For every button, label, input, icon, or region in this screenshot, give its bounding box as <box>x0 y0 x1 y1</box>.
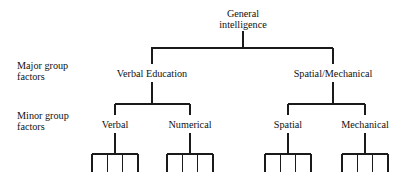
row-label-minor-line2: factors <box>17 121 69 132</box>
node-general-intelligence-line2: intelligence <box>219 19 267 30</box>
node-verbal-education: Verbal Education <box>117 68 187 79</box>
tree-connector-lines <box>0 0 412 178</box>
node-general-intelligence-line1: General <box>219 8 267 19</box>
node-general-intelligence: General intelligence <box>219 8 267 30</box>
node-numerical: Numerical <box>169 119 212 130</box>
row-label-minor-group-factors: Minor group factors <box>17 110 69 132</box>
node-spatial-mechanical: Spatial/Mechanical <box>294 68 373 79</box>
node-verbal: Verbal <box>102 119 129 130</box>
node-mechanical: Mechanical <box>341 119 389 130</box>
row-label-major-group-factors: Major group factors <box>17 60 68 82</box>
row-label-minor-line1: Minor group <box>17 110 69 121</box>
diagram-canvas: Major group factors Minor group factors … <box>0 0 412 178</box>
row-label-major-line1: Major group <box>17 60 68 71</box>
node-spatial: Spatial <box>274 119 302 130</box>
row-label-major-line2: factors <box>17 71 68 82</box>
